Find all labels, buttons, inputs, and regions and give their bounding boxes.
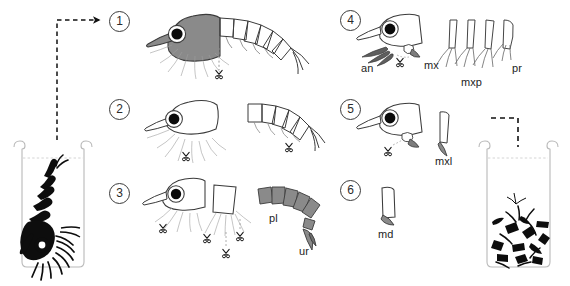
step-number-1: 1: [109, 11, 130, 32]
step-3-illustration: [143, 178, 321, 257]
scissors-icon: [223, 249, 230, 257]
scissors-icon: [216, 70, 223, 78]
label-pereiopod: pr: [512, 62, 522, 74]
step-5-illustration: [357, 103, 450, 156]
step-number-5: 5: [340, 99, 361, 120]
label-maxilliped: mxp: [461, 76, 482, 88]
pleopod-segments: [258, 187, 320, 218]
step-2-illustration: [145, 101, 326, 163]
step-number-3: 3: [109, 183, 130, 204]
step-number-6: 6: [340, 180, 361, 201]
scissors-icon: [204, 234, 211, 242]
dashed-arrow-out-icon: [57, 20, 99, 140]
step-number-4: 4: [340, 10, 361, 31]
figure-canvas: 1 2 3 4 5 6 an mx mxp pr mxl md pl ur: [0, 0, 570, 286]
scissors-icon: [160, 224, 167, 232]
label-maxillule: mxl: [435, 155, 452, 167]
collection-beaker: [479, 141, 558, 268]
scissors-icon: [397, 58, 404, 66]
step-1-illustration: [147, 14, 310, 79]
label-antenna: an: [361, 62, 373, 74]
source-beaker: [14, 141, 92, 280]
step-number-2: 2: [109, 99, 130, 120]
scissors-icon: [183, 152, 190, 160]
scissors-icon: [385, 147, 392, 155]
label-pleopod: pl: [269, 212, 278, 224]
step-6-illustration: [381, 187, 395, 225]
label-uropod: ur: [299, 245, 309, 257]
diagram-artwork: [0, 0, 570, 286]
scissors-icon: [286, 143, 293, 151]
scissors-icon: [237, 232, 244, 240]
label-mandible: md: [378, 228, 393, 240]
label-maxilla: mx: [424, 59, 439, 71]
